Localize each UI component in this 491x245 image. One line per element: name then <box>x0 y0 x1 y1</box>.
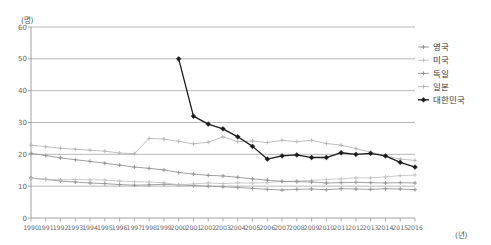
x-axis-tick-label: 2000 <box>171 224 187 231</box>
x-axis-tick-label: 2013 <box>363 224 379 231</box>
x-axis-tick-label: 1998 <box>141 224 157 231</box>
series-3 <box>29 135 417 163</box>
x-axis-tick-label: 2012 <box>348 224 364 231</box>
legend-label: 미국 <box>433 55 449 65</box>
x-axis-tick-label: 1992 <box>53 224 69 231</box>
legend-item-4[interactable]: 대한민국 <box>418 95 465 105</box>
legend-item-1[interactable]: 미국 <box>418 55 449 65</box>
legend-item-0[interactable]: 영국 <box>418 42 449 52</box>
x-axis-tick-label: 1990 <box>23 224 39 231</box>
series-line <box>179 59 415 167</box>
x-axis-tick-label: 2002 <box>200 224 216 231</box>
y-axis-tick-label: 50 <box>18 55 27 63</box>
x-axis-tick-label: 1995 <box>97 224 113 231</box>
x-axis-tick-label: 2011 <box>333 224 349 231</box>
legend-item-3[interactable]: 일본 <box>418 82 449 92</box>
x-axis-tick-label: 2007 <box>274 224 290 231</box>
x-axis-tick-label: 1993 <box>67 224 83 231</box>
y-axis-tick-label: 20 <box>18 151 27 159</box>
x-axis-tick-label: 2016 <box>407 224 423 231</box>
y-axis-unit-label: (명) <box>21 14 33 25</box>
legend-marker-icon <box>422 58 426 62</box>
x-axis-tick-label: 2015 <box>392 224 408 231</box>
x-axis-tick-label: 1994 <box>82 224 98 231</box>
x-axis-tick-label: 2006 <box>259 224 275 231</box>
y-axis-tick-label: 0 <box>23 215 27 223</box>
legend-marker-icon <box>422 85 426 89</box>
legend-marker-icon <box>422 71 426 75</box>
x-axis-tick-label: 2003 <box>215 224 231 231</box>
x-axis-tick-label: 1997 <box>127 224 143 231</box>
x-axis-tick-label: 2010 <box>319 224 335 231</box>
legend-marker-icon <box>422 45 426 49</box>
legend-label: 일본 <box>433 82 449 92</box>
x-axis-tick-label: 2001 <box>186 224 202 231</box>
y-axis-tick-label: 10 <box>18 183 27 191</box>
series-4 <box>176 56 417 169</box>
x-axis-tick-label: 2005 <box>245 224 261 231</box>
x-axis-tick-label: 1999 <box>156 224 172 231</box>
x-axis-tick-label: 2008 <box>289 224 305 231</box>
legend-label: 독일 <box>433 69 449 79</box>
x-axis-tick-label: 2009 <box>304 224 320 231</box>
line-chart-plot: 0102030405060199019911992199319941995199… <box>0 0 491 245</box>
y-axis-tick-label: 40 <box>18 87 27 95</box>
legend-label: 영국 <box>433 42 449 52</box>
y-axis-tick-label: 30 <box>18 119 27 127</box>
x-axis-tick-label: 2004 <box>230 224 246 231</box>
x-axis-tick-label: 2014 <box>378 224 394 231</box>
x-axis-tick-label: 1996 <box>112 224 128 231</box>
legend-label: 대한민국 <box>433 95 465 105</box>
legend-item-2[interactable]: 독일 <box>418 69 449 79</box>
chart-container: (명) (년) 01020304050601990199119921993199… <box>0 0 491 245</box>
x-axis-tick-label: 1991 <box>38 224 54 231</box>
series-line <box>31 153 415 183</box>
x-axis-unit-label: (년) <box>455 229 467 240</box>
legend-marker-icon <box>421 97 426 102</box>
